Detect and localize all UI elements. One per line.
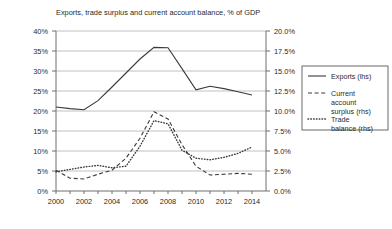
x-tick-label: 2010	[188, 197, 204, 206]
y-right-tick-label: 12.5%	[274, 87, 295, 96]
legend-label-current-account-1: Current	[331, 89, 355, 98]
x-tick-label: 2008	[160, 197, 176, 206]
legend-label-exports: Exports (lhs)	[331, 72, 371, 81]
x-tick-label: 2006	[132, 197, 148, 206]
series-lines	[56, 47, 252, 179]
legend-label-current-account-2: account	[331, 98, 356, 107]
x-tick-label: 2002	[76, 197, 92, 206]
y-right-tick-label: 10.0%	[274, 107, 295, 116]
legend-label-trade-balance-2: balance (rhs)	[331, 124, 373, 133]
series-trade-balance-line	[56, 121, 252, 172]
x-tick-label: 2000	[48, 197, 64, 206]
y-right-tick-label: 7.5%	[274, 127, 291, 136]
y-right-tick-label: 15.0%	[274, 67, 295, 76]
legend: Exports (lhs) Current account surplus (r…	[302, 66, 388, 133]
y-left-tick-label: 0%	[37, 187, 48, 196]
y-left-tick-label: 10%	[33, 147, 48, 156]
x-tick-label: 2004	[104, 197, 120, 206]
y-right-tick-label: 5.0%	[274, 147, 291, 156]
x-axis-tick-labels: 20002002200420062008201020122014	[48, 197, 260, 206]
y-left-tick-label: 15%	[33, 127, 48, 136]
y-left-tick-label: 5%	[37, 167, 48, 176]
y-axis-left-ticks	[52, 31, 56, 191]
y-right-tick-label: 17.5%	[274, 47, 295, 56]
y-left-tick-label: 20%	[33, 107, 48, 116]
gridlines	[56, 31, 266, 171]
legend-label-trade-balance-1: Trade	[331, 115, 350, 124]
y-right-tick-label: 2.5%	[274, 167, 291, 176]
chart-container: Exports, trade surplus and current accou…	[0, 0, 392, 229]
series-exports-line	[56, 47, 252, 109]
y-right-tick-label: 20.0%	[274, 27, 295, 36]
chart-canvas: 40% 35% 30% 25% 20% 15% 10% 5% 0% 20.0% …	[0, 0, 392, 229]
y-left-tick-label: 25%	[33, 87, 48, 96]
y-left-tick-label: 35%	[33, 47, 48, 56]
y-axis-right-ticks	[266, 31, 270, 191]
y-right-tick-label: 0.0%	[274, 187, 291, 196]
y-left-tick-label: 30%	[33, 67, 48, 76]
y-left-tick-label: 40%	[33, 27, 48, 36]
x-tick-label: 2014	[244, 197, 260, 206]
x-tick-label: 2012	[216, 197, 232, 206]
